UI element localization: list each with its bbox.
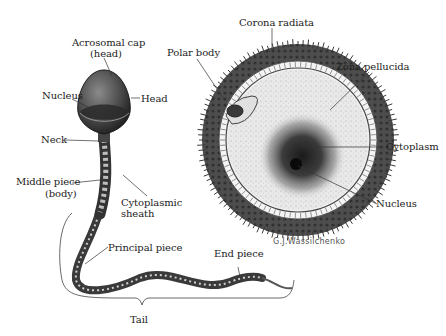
cytoplasm [258,112,346,200]
sperm-head [78,70,131,134]
artist-signature: G.J.Wassilchenko [273,237,345,246]
zona-tick [290,213,291,218]
ovum-nucleus [290,158,302,170]
label-corona-radiata: Corona radiata [239,17,314,29]
label-neck: Neck [41,134,67,146]
zona-tick [306,62,307,67]
label-cytoplasmic-sheath-2: sheath [121,208,154,220]
label-head: Head [141,93,168,105]
label-middle-piece: Middle piece [16,176,80,188]
label-sperm-nucleus: Nucleus [42,90,83,102]
sperm-end-piece [262,278,292,288]
label-acrosomal-cap-head: (head) [90,48,122,60]
label-tail: Tail [130,314,148,326]
label-zona-pellucida: Zona pellucida [336,61,409,73]
label-polar-body: Polar body [167,47,220,59]
polar-body [227,105,243,117]
illustration [0,0,446,336]
anatomy-figure: Acrosomal cap (head) Head Nucleus Neck M… [0,0,446,336]
label-cytoplasm: Cytoplasm [386,141,439,153]
zona-tick [306,213,307,218]
label-ovum-nucleus: Nucleus [376,198,417,210]
label-middle-piece-body: (body) [45,188,77,200]
zona-tick [290,62,291,67]
label-end-piece: End piece [214,248,263,260]
label-principal-piece: Principal piece [108,242,182,254]
